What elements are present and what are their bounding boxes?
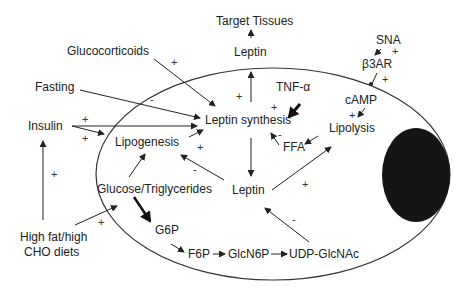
f6p-label: F6P xyxy=(188,247,210,261)
sign-leptin-export: + xyxy=(236,90,242,102)
glucose-triglycerides-label: Glucose/Triglycerides xyxy=(97,182,212,196)
lipolysis-label: Lipolysis xyxy=(329,121,375,135)
ffa-label: FFA xyxy=(283,140,305,154)
glucocorticoids-label: Glucocorticoids xyxy=(67,44,149,58)
lipogenesis-label: Lipogenesis xyxy=(115,135,179,149)
sign-fasting: - xyxy=(150,93,154,105)
leptin-label: Leptin xyxy=(232,183,265,197)
diet-label-line1: High fat/high xyxy=(20,230,87,244)
sign-camp: + xyxy=(349,109,355,121)
glcn6p-label: GlcN6P xyxy=(228,247,269,261)
sign-lipogenesis-synthesis: + xyxy=(197,141,203,153)
leptin-export-label: Leptin xyxy=(234,45,267,59)
sign-sna: + xyxy=(392,45,398,57)
g6p-label: G6P xyxy=(155,223,179,237)
nucleus xyxy=(382,128,450,222)
sign-glucocorticoids: + xyxy=(171,56,177,68)
sign-leptin-lipogenesis: - xyxy=(193,163,197,175)
fasting-label: Fasting xyxy=(35,80,74,94)
sign-insulin-synthesis: + xyxy=(82,113,88,125)
sign-diet-insulin: + xyxy=(51,168,57,180)
udp-glcnac-label: UDP-GlcNAc xyxy=(289,247,359,261)
sign-udp-leptin: - xyxy=(292,213,296,225)
sign-leptin-lipolysis: + xyxy=(302,178,308,190)
sign-insulin-lipogenesis: + xyxy=(82,132,88,144)
sign-diet-glucose: + xyxy=(98,216,104,228)
tnf-alpha-label: TNF-α xyxy=(276,80,310,94)
camp-label: cAMP xyxy=(345,93,377,107)
sign-ffa: - xyxy=(278,128,282,140)
insulin-label: Insulin xyxy=(28,119,63,133)
sign-tnf: + xyxy=(271,101,277,113)
sign-b3ar: + xyxy=(382,73,388,85)
b3ar-label: β3AR xyxy=(362,57,392,71)
target-tissues-label: Target Tissues xyxy=(216,14,293,28)
leptin-synthesis-label: Leptin synthesis xyxy=(205,113,291,127)
diet-label-line2: CHO diets xyxy=(24,245,79,259)
